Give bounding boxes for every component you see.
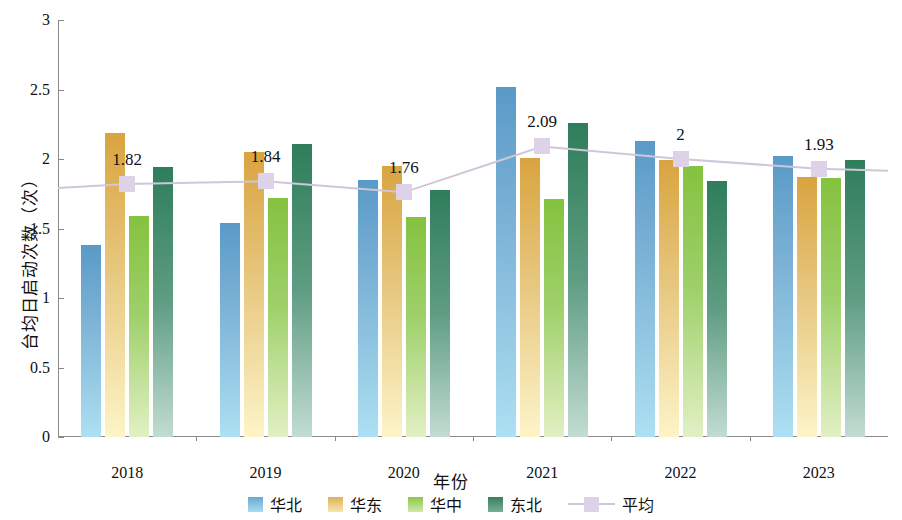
x-tick-mark bbox=[335, 436, 336, 441]
y-tick-label: 0.5 bbox=[6, 359, 50, 377]
average-data-label: 1.76 bbox=[389, 158, 419, 178]
average-marker bbox=[811, 161, 827, 177]
y-tick-label: 1 bbox=[6, 289, 50, 307]
average-marker bbox=[534, 138, 550, 154]
average-data-label: 2.09 bbox=[527, 112, 557, 132]
y-tick-mark bbox=[58, 437, 64, 438]
legend-swatch-icon bbox=[488, 497, 503, 512]
legend-label: 华东 bbox=[350, 492, 382, 516]
x-tick-mark bbox=[196, 436, 197, 441]
average-marker bbox=[119, 176, 135, 192]
legend-item-华中[interactable]: 华中 bbox=[408, 492, 462, 516]
average-marker bbox=[673, 151, 689, 167]
average-data-label: 1.82 bbox=[112, 150, 142, 170]
legend-item-平均[interactable]: 平均 bbox=[568, 492, 654, 516]
average-marker bbox=[396, 184, 412, 200]
average-line-lead bbox=[58, 184, 127, 188]
x-tick-mark bbox=[611, 436, 612, 441]
chart-root: 台均日启动次数（次） 00.511.522.53 1.821.841.762.0… bbox=[0, 0, 902, 520]
y-tick-label: 0 bbox=[6, 428, 50, 446]
average-data-label: 2 bbox=[676, 125, 685, 145]
legend-swatch-icon bbox=[248, 497, 263, 512]
average-line bbox=[58, 20, 888, 437]
average-data-label: 1.84 bbox=[251, 147, 281, 167]
y-axis-title: 台均日启动次数（次） bbox=[16, 150, 41, 370]
legend-line-marker-icon bbox=[568, 497, 615, 512]
y-tick-label: 2.5 bbox=[6, 81, 50, 99]
legend-label: 东北 bbox=[510, 492, 542, 516]
y-tick-label: 3 bbox=[6, 11, 50, 29]
y-tick-label: 1.5 bbox=[6, 220, 50, 238]
legend-swatch-icon bbox=[328, 497, 343, 512]
legend-item-华东[interactable]: 华东 bbox=[328, 492, 382, 516]
x-axis-title: 年份 bbox=[0, 468, 902, 493]
plot-area: 00.511.522.53 1.821.841.762.0921.93 2018… bbox=[58, 20, 888, 437]
average-data-label: 1.93 bbox=[804, 135, 834, 155]
average-line-tail bbox=[819, 169, 888, 171]
x-tick-mark bbox=[473, 436, 474, 441]
legend-item-东北[interactable]: 东北 bbox=[488, 492, 542, 516]
average-polyline bbox=[127, 146, 819, 192]
legend-label: 平均 bbox=[622, 492, 654, 516]
y-tick-label: 2 bbox=[6, 150, 50, 168]
legend-label: 华北 bbox=[270, 492, 302, 516]
legend-swatch-icon bbox=[408, 497, 423, 512]
legend-item-华北[interactable]: 华北 bbox=[248, 492, 302, 516]
legend-label: 华中 bbox=[430, 492, 462, 516]
average-marker bbox=[258, 173, 274, 189]
chart-legend: 华北华东华中东北平均 bbox=[0, 492, 902, 516]
x-tick-mark bbox=[750, 436, 751, 441]
